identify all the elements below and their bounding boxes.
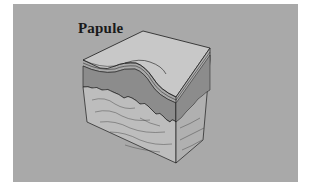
skin-cross-section-illustration	[0, 0, 311, 189]
